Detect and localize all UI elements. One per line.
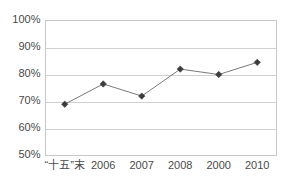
y-axis-tick-label: 70% <box>18 94 40 106</box>
y-axis-tick-label: 80% <box>18 67 40 79</box>
x-axis-tick-label: 2000 <box>207 159 231 171</box>
y-axis-tick-label: 60% <box>18 121 40 133</box>
x-axis-tick-label: 2007 <box>130 159 154 171</box>
y-axis-tick-label: 50% <box>18 148 40 160</box>
y-axis-tick-label: 100% <box>12 13 40 25</box>
x-axis-tick-label: 2008 <box>168 159 192 171</box>
chart-canvas: 50%60%70%80%90%100% “十五”末200620072008200… <box>0 0 288 183</box>
x-axis-tick-label: “十五”末 <box>45 158 85 171</box>
x-axis-tick-label: 2010 <box>245 159 269 171</box>
line-chart: 50%60%70%80%90%100% “十五”末200620072008200… <box>0 0 288 183</box>
y-axis-tick-label: 90% <box>18 40 40 52</box>
plot-area <box>46 21 277 156</box>
x-axis-tick-label: 2006 <box>91 159 115 171</box>
